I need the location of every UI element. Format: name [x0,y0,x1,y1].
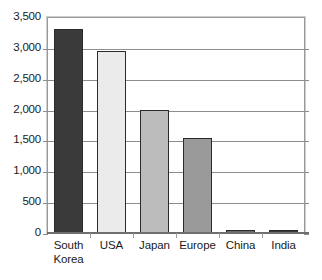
bar [97,51,126,233]
bar [140,110,169,233]
x-axis-tick-label: USA [90,239,133,253]
y-axis-tick-label: 2,000 [0,104,41,116]
x-axis-ticks [47,233,305,238]
y-axis-tick-label: 0 [0,227,41,239]
bar-chart: 05001,0001,5002,0002,5003,0003,500 South… [0,0,322,280]
x-axis-tick [90,233,91,238]
y-axis-labels: 05001,0001,5002,0002,5003,0003,500 [0,0,41,280]
y-axis-tick-label: 2,500 [0,73,41,85]
x-axis-tick-label: India [262,239,305,253]
x-axis-tick [262,233,263,238]
x-axis-tick [219,233,220,238]
x-axis-tick-label: Europe [176,239,219,253]
x-axis-tick-label: South Korea [47,239,90,266]
bar [54,29,83,233]
x-axis-tick [133,233,134,238]
y-axis-tick-label: 1,000 [0,166,41,178]
y-axis-tick-label: 3,500 [0,11,41,23]
bar [183,138,212,233]
x-axis-tick-label: China [219,239,262,253]
bars-layer [47,17,305,233]
y-axis-tick-label: 500 [0,196,41,208]
x-axis-tick-label: Japan [133,239,176,253]
y-axis-tick-label: 3,000 [0,42,41,54]
x-axis-labels: South KoreaUSAJapanEuropeChinaIndia [47,239,305,280]
y-axis-tick-label: 1,500 [0,135,41,147]
x-axis-tick [176,233,177,238]
